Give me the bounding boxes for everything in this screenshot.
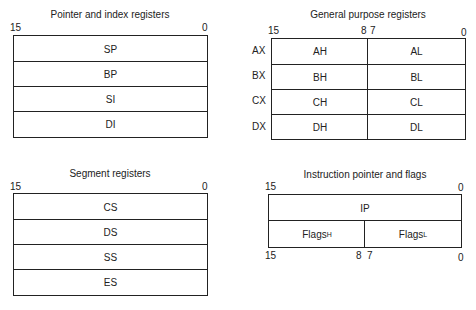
register-cs: CS bbox=[14, 194, 207, 220]
register-dl: DL bbox=[368, 115, 465, 139]
register-flags-low: FlagsL bbox=[365, 221, 461, 247]
register-bx: BH BL bbox=[272, 64, 465, 89]
register-flags: FlagsH FlagsL bbox=[269, 220, 461, 247]
bit-0-label-bottom: 0 bbox=[458, 252, 464, 263]
flags-high-text: Flags bbox=[302, 229, 326, 240]
register-dx: DH DL bbox=[272, 114, 465, 139]
register-bp: BP bbox=[14, 61, 207, 87]
register-di: DI bbox=[14, 111, 207, 137]
register-ax: AH AL bbox=[272, 39, 465, 64]
row-label-ax: AX bbox=[252, 45, 265, 56]
bit-7-label-bottom: 7 bbox=[367, 250, 373, 261]
bit-0-label: 0 bbox=[458, 182, 464, 193]
segment-title: Segment registers bbox=[13, 168, 207, 179]
byte-divider bbox=[364, 221, 365, 247]
bit-15-label: 15 bbox=[10, 22, 21, 33]
bit-7-label: 7 bbox=[370, 25, 376, 36]
flags-high-subscript: H bbox=[327, 231, 332, 238]
flags-low-text: Flags bbox=[399, 229, 423, 240]
pointer-index-box: SP BP SI DI bbox=[13, 35, 208, 138]
bit-15-label: 15 bbox=[265, 181, 276, 192]
pointer-index-title: Pointer and index registers bbox=[13, 9, 207, 20]
register-al: AL bbox=[368, 39, 465, 64]
register-ah: AH bbox=[272, 39, 368, 64]
bit-15-label-bottom: 15 bbox=[265, 250, 276, 261]
general-purpose-box: AH AL BH BL CH CL DH DL bbox=[271, 38, 466, 140]
bit-0-label: 0 bbox=[461, 27, 467, 38]
row-label-dx: DX bbox=[252, 121, 266, 132]
register-es: ES bbox=[14, 269, 207, 295]
register-si: SI bbox=[14, 86, 207, 112]
segment-box: CS DS SS ES bbox=[13, 193, 208, 296]
byte-divider bbox=[367, 39, 368, 139]
register-bh: BH bbox=[272, 65, 368, 89]
row-label-cx: CX bbox=[252, 95, 266, 106]
register-ds: DS bbox=[14, 219, 207, 245]
register-cl: CL bbox=[368, 90, 465, 114]
ip-flags-title: Instruction pointer and flags bbox=[268, 169, 462, 180]
register-flags-high: FlagsH bbox=[269, 221, 365, 247]
register-bl: BL bbox=[368, 65, 465, 89]
register-sp: SP bbox=[14, 36, 207, 62]
ip-flags-box: IP FlagsH FlagsL bbox=[268, 194, 462, 248]
register-ch: CH bbox=[272, 90, 368, 114]
register-ss: SS bbox=[14, 244, 207, 270]
bit-15-label: 15 bbox=[268, 25, 279, 36]
bit-8-label-bottom: 8 bbox=[356, 250, 362, 261]
flags-low-subscript: L bbox=[423, 231, 427, 238]
register-ip: IP bbox=[269, 195, 461, 221]
row-label-bx: BX bbox=[252, 70, 265, 81]
general-purpose-title: General purpose registers bbox=[271, 9, 465, 20]
register-dh: DH bbox=[272, 115, 368, 139]
register-cx: CH CL bbox=[272, 89, 465, 114]
bit-15-label: 15 bbox=[10, 181, 21, 192]
bit-0-label: 0 bbox=[202, 22, 208, 33]
bit-0-label: 0 bbox=[202, 181, 208, 192]
bit-8-label: 8 bbox=[361, 25, 367, 36]
